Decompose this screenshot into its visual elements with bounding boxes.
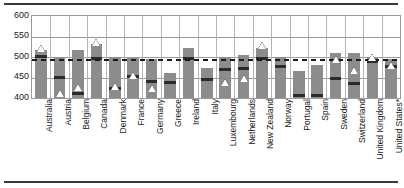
vertical-gridline <box>363 16 364 98</box>
vertical-gridline <box>216 16 217 98</box>
mean-marker-icon <box>37 45 45 52</box>
y-axis-tick-label: 550 <box>1 31 29 40</box>
median-band <box>201 78 212 81</box>
vertical-gridline <box>124 16 125 98</box>
vertical-gridline <box>87 16 88 98</box>
bar <box>109 57 120 98</box>
bar <box>164 73 175 98</box>
x-axis-category-label: Greece <box>173 99 183 127</box>
plot-area <box>31 15 401 99</box>
median-band <box>330 77 341 80</box>
mean-marker-icon <box>258 42 266 49</box>
vertical-gridline <box>198 16 199 98</box>
vertical-gridline <box>161 16 162 98</box>
x-axis-category-label: Austria <box>63 99 73 125</box>
bar <box>91 44 102 98</box>
bar <box>219 57 230 98</box>
x-axis-category-label: Norway <box>283 99 293 128</box>
mean-marker-icon <box>56 90 64 97</box>
x-axis-category-label: Sweden <box>339 99 349 130</box>
median-band <box>293 94 304 97</box>
x-axis-category-label: United Kingdom <box>375 99 385 159</box>
vertical-gridline <box>345 16 346 98</box>
vertical-gridline <box>308 16 309 98</box>
median-band <box>348 82 359 85</box>
mean-marker-icon <box>387 62 395 69</box>
bar <box>367 57 378 98</box>
x-axis-category-label: France <box>136 99 146 125</box>
x-axis-category-label: Switzerland <box>357 99 367 143</box>
median-band <box>164 81 175 84</box>
vertical-gridline <box>382 16 383 98</box>
x-axis-category-label: Canada <box>99 99 109 129</box>
bar <box>311 65 322 98</box>
y-axis: 400450500550600 <box>0 0 29 112</box>
vertical-gridline <box>142 16 143 98</box>
mean-marker-icon <box>74 84 82 91</box>
x-axis-category-label: Spain <box>320 99 330 121</box>
vertical-gridline <box>50 16 51 98</box>
y-axis-tick-label: 400 <box>1 93 29 102</box>
median-band <box>219 68 230 71</box>
x-axis-category-label: Australia <box>44 99 54 132</box>
vertical-gridline <box>234 16 235 98</box>
vertical-gridline <box>69 16 70 98</box>
bar <box>146 59 157 98</box>
x-axis-category-label: Ireland <box>191 99 201 125</box>
mean-marker-icon <box>368 54 376 61</box>
mean-marker-icon <box>221 79 229 86</box>
x-axis-category-label: Italy <box>210 99 220 115</box>
vertical-gridline <box>179 16 180 98</box>
vertical-gridline <box>326 16 327 98</box>
mean-marker-icon <box>332 56 340 63</box>
mean-marker-icon <box>111 83 119 90</box>
median-band <box>275 65 286 68</box>
x-axis-category-label: Netherlands <box>247 99 257 145</box>
mean-marker-icon <box>350 67 358 74</box>
median-band <box>54 76 65 79</box>
x-axis-category-label: Portugal <box>302 99 312 131</box>
y-axis-tick-label: 450 <box>1 72 29 81</box>
x-axis-category-label: Denmark <box>118 99 128 133</box>
x-axis-category-label: Belgium <box>81 99 91 130</box>
top-rule <box>4 3 398 5</box>
y-axis-tick-label: 600 <box>1 11 29 20</box>
x-axis-category-labels: AustraliaAustriaBelgiumCanadaDenmarkFran… <box>31 99 399 183</box>
vertical-gridline <box>253 16 254 98</box>
x-axis-category-label: United States* <box>394 99 404 153</box>
median-band <box>146 80 157 83</box>
median-band <box>35 55 46 58</box>
mean-marker-icon <box>240 75 248 82</box>
mean-marker-icon <box>129 72 137 79</box>
vertical-gridline <box>290 16 291 98</box>
median-band <box>238 67 249 70</box>
bar <box>201 68 212 98</box>
vertical-gridline <box>271 16 272 98</box>
plot-inner <box>32 16 400 98</box>
mean-marker-icon <box>148 85 156 92</box>
median-band <box>72 92 83 95</box>
reference-line <box>32 59 400 61</box>
x-axis-category-label: New Zealand <box>265 99 275 149</box>
y-axis-tick-label: 500 <box>1 52 29 61</box>
bar <box>256 48 267 98</box>
x-axis-category-label: Germany <box>155 99 165 134</box>
median-band <box>311 94 322 97</box>
vertical-gridline <box>106 16 107 98</box>
mean-marker-icon <box>92 39 100 46</box>
bar <box>275 57 286 98</box>
x-axis-category-label: Luxembourg <box>228 99 238 146</box>
